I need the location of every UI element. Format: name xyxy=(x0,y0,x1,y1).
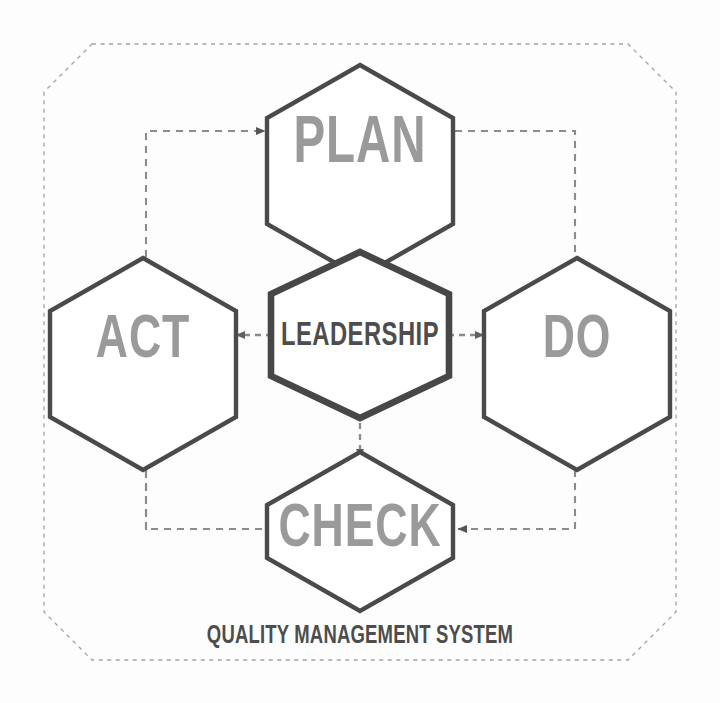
do-label: DO xyxy=(543,301,612,370)
hexagon-node-act[interactable]: ACT xyxy=(50,258,236,470)
connector-plan-to-do xyxy=(455,131,575,289)
plan-label: PLAN xyxy=(293,103,426,176)
pdca-hexagon-diagram: PLAN ACT DO CHECK LEADERSHIP QUALITY MAN… xyxy=(0,0,720,703)
diagram-canvas: PLAN ACT DO CHECK LEADERSHIP QUALITY MAN… xyxy=(0,0,720,703)
hexagon-node-plan[interactable]: PLAN xyxy=(267,65,453,277)
check-label: CHECK xyxy=(278,490,441,559)
act-label: ACT xyxy=(96,301,190,370)
leadership-label: LEADERSHIP xyxy=(281,314,439,352)
hexagon-node-check[interactable]: CHECK xyxy=(267,452,453,611)
hexagon-node-do[interactable]: DO xyxy=(484,258,670,470)
hexagon-node-leadership[interactable]: LEADERSHIP xyxy=(271,252,449,418)
diagram-caption: QUALITY MANAGEMENT SYSTEM xyxy=(207,620,513,648)
